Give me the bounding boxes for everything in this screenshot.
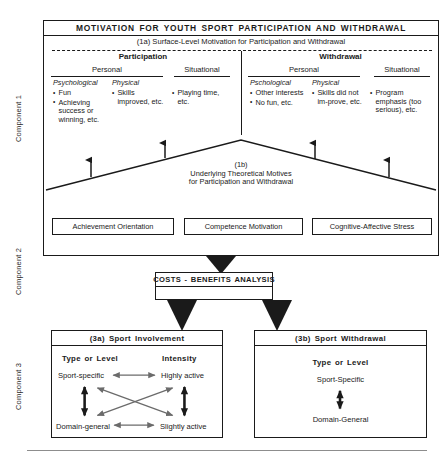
node-domain-general: Domain-general — [56, 422, 110, 431]
withdrawal-col-type-or-level: Type or Level — [255, 358, 426, 367]
node-domain-general-withdrawal: Domain-General — [255, 415, 426, 424]
involvement-col-intensity: Intensity — [162, 354, 197, 363]
node-sport-specific-withdrawal: Sport-Specific — [255, 375, 426, 384]
sport-involvement-title-bar: (3a) Sport Involvement — [52, 331, 222, 346]
costs-benefits-title-bar: COSTS - BENEFITS ANALYSIS — [156, 273, 272, 287]
node-highly-active: Highly active — [161, 371, 204, 380]
node-slightly-active: Slightly active — [160, 422, 206, 431]
node-sport-specific: Sport-specific — [58, 371, 104, 380]
costs-benefits-title: COSTS - BENEFITS ANALYSIS — [153, 275, 275, 284]
sport-withdrawal-title: (3b) Sport Withdrawal — [295, 334, 386, 343]
page-bottom-rule — [27, 450, 427, 451]
sport-withdrawal-title-bar: (3b) Sport Withdrawal — [255, 331, 426, 346]
diagram-canvas: Component 1 Component 2 Component 3 MOTI… — [0, 0, 443, 458]
involvement-col-type-or-level: Type or Level — [62, 354, 118, 363]
sport-withdrawal-box[interactable]: (3b) Sport Withdrawal Type or Level Spor… — [254, 330, 427, 438]
sport-involvement-title: (3a) Sport Involvement — [90, 334, 185, 343]
costs-benefits-analysis-box[interactable]: COSTS - BENEFITS ANALYSIS — [155, 272, 273, 300]
sport-involvement-box[interactable]: (3a) Sport Involvement Type or Level Int… — [51, 330, 223, 438]
